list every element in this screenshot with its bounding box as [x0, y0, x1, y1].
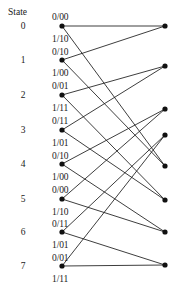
branch-label: 1/00 — [52, 173, 69, 183]
trellis-edge-6-to-3 — [62, 135, 165, 232]
right-state-node-1 — [162, 63, 167, 68]
right-state-node-5 — [162, 197, 167, 202]
state-number-3: 3 — [13, 126, 33, 136]
branch-label: 1/11 — [52, 104, 68, 114]
left-state-node-0 — [59, 23, 64, 28]
trellis-edge-4-to-6 — [62, 164, 165, 232]
trellis-edge-2-to-5 — [62, 95, 165, 200]
right-state-node-6 — [162, 229, 167, 234]
state-number-2: 2 — [13, 91, 33, 101]
state-number-1: 1 — [13, 56, 33, 66]
branch-label: 0/11 — [52, 220, 68, 230]
trellis-edge-1-to-0 — [62, 26, 165, 60]
branch-label: 1/10 — [52, 208, 69, 218]
left-state-node-6 — [59, 229, 64, 234]
state-number-5: 5 — [13, 195, 33, 205]
branch-label: 0/01 — [52, 254, 69, 264]
trellis-right-nodes — [162, 23, 167, 267]
branch-label: 0/01 — [52, 82, 69, 92]
right-state-node-3 — [162, 132, 167, 137]
right-state-node-2 — [162, 106, 167, 111]
trellis-diagram: State 01234567 0/001/100/101/000/011/110… — [0, 0, 183, 299]
state-number-4: 4 — [13, 160, 33, 170]
state-number-7: 7 — [13, 262, 33, 272]
branch-label: 0/00 — [52, 13, 69, 23]
branch-label: 1/10 — [52, 35, 69, 45]
branch-label: 1/11 — [52, 275, 68, 285]
branch-label: 1/00 — [52, 69, 69, 79]
left-state-node-4 — [59, 161, 64, 166]
right-state-node-7 — [162, 262, 167, 267]
trellis-edge-4-to-2 — [62, 109, 165, 164]
branch-label: 1/01 — [52, 241, 69, 251]
branch-label: 0/00 — [52, 186, 69, 196]
branch-label: 0/11 — [52, 117, 68, 127]
right-state-node-0 — [162, 23, 167, 28]
trellis-edge-5-to-6 — [62, 199, 165, 232]
state-number-0: 0 — [13, 22, 33, 32]
trellis-edge-3-to-5 — [62, 130, 165, 200]
trellis-canvas — [0, 0, 183, 299]
trellis-edges — [62, 26, 165, 266]
left-state-node-7 — [59, 263, 64, 268]
right-state-node-4 — [162, 163, 167, 168]
left-state-node-5 — [59, 196, 64, 201]
trellis-edge-0-to-4 — [62, 26, 165, 166]
branch-label: 0/10 — [52, 152, 69, 162]
branch-label: 0/10 — [52, 48, 69, 58]
trellis-edge-7-to-3 — [62, 135, 165, 266]
trellis-edge-7-to-7 — [62, 265, 165, 266]
trellis-edge-2-to-1 — [62, 66, 165, 95]
left-state-node-2 — [59, 92, 64, 97]
state-number-6: 6 — [13, 228, 33, 238]
branch-label: 1/01 — [52, 139, 69, 149]
left-state-node-3 — [59, 127, 64, 132]
left-state-node-1 — [59, 57, 64, 62]
state-column-header: State — [8, 8, 27, 18]
trellis-edge-6-to-7 — [62, 232, 165, 265]
